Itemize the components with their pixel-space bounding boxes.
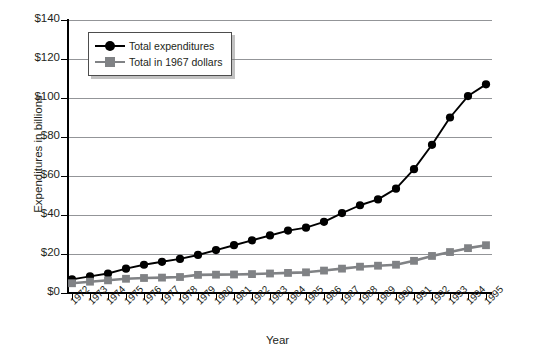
data-point-marker xyxy=(194,251,202,259)
legend-label-total-expenditures: Total expenditures xyxy=(125,40,214,52)
data-point-marker xyxy=(122,275,130,283)
data-point-marker xyxy=(158,258,166,266)
data-point-marker xyxy=(410,165,418,173)
data-point-marker xyxy=(302,268,310,276)
data-point-marker xyxy=(428,141,436,149)
data-point-marker xyxy=(482,241,490,249)
data-point-marker xyxy=(446,248,454,256)
legend-marker-square-gray xyxy=(95,55,125,69)
data-point-marker xyxy=(140,274,148,282)
data-point-marker xyxy=(374,195,382,203)
y-tick-mark xyxy=(61,293,68,294)
data-point-marker xyxy=(374,262,382,270)
data-point-marker xyxy=(266,231,274,239)
data-point-marker xyxy=(464,244,472,252)
y-tick-mark xyxy=(61,20,68,21)
data-point-marker xyxy=(320,218,328,226)
y-tick-mark xyxy=(61,176,68,177)
line-chart: Expenditures in billions $0$20$40$60$80$… xyxy=(0,0,555,357)
data-point-marker xyxy=(104,276,112,284)
data-point-marker xyxy=(194,271,202,279)
legend-label-total-1967-dollars: Total in 1967 dollars xyxy=(125,56,222,68)
data-point-marker xyxy=(482,80,490,88)
data-point-marker xyxy=(392,261,400,269)
y-tick-mark xyxy=(61,137,68,138)
data-point-marker xyxy=(284,269,292,277)
data-point-marker xyxy=(356,263,364,271)
legend-marker-circle-black xyxy=(95,39,125,53)
data-point-marker xyxy=(212,271,220,279)
data-point-marker xyxy=(86,278,94,286)
data-point-marker xyxy=(446,113,454,121)
data-point-marker xyxy=(338,209,346,217)
y-tick-mark xyxy=(61,254,68,255)
data-series-layer xyxy=(0,0,555,357)
x-axis-title: Year xyxy=(0,334,555,346)
data-point-marker xyxy=(248,270,256,278)
chart-legend: Total expenditures Total in 1967 dollars xyxy=(88,32,232,76)
series-line-total-expenditures xyxy=(72,84,486,279)
legend-item-total-expenditures: Total expenditures xyxy=(95,38,222,54)
data-point-marker xyxy=(176,255,184,263)
data-point-marker xyxy=(248,236,256,244)
y-tick-mark xyxy=(61,215,68,216)
series-line-total-1967-dollars xyxy=(72,245,486,283)
y-tick-mark xyxy=(61,59,68,60)
legend-item-total-1967-dollars: Total in 1967 dollars xyxy=(95,54,222,70)
data-point-marker xyxy=(356,201,364,209)
data-point-marker xyxy=(410,257,418,265)
data-point-marker xyxy=(212,246,220,254)
data-point-marker xyxy=(158,274,166,282)
data-point-marker xyxy=(392,185,400,193)
data-point-marker xyxy=(122,265,130,273)
data-point-marker xyxy=(266,270,274,278)
data-point-marker xyxy=(230,271,238,279)
data-point-marker xyxy=(320,267,328,275)
data-point-marker xyxy=(428,252,436,260)
data-point-marker xyxy=(176,273,184,281)
data-point-marker xyxy=(338,265,346,273)
y-tick-mark xyxy=(61,98,68,99)
data-point-marker xyxy=(464,92,472,100)
data-point-marker xyxy=(230,241,238,249)
data-point-marker xyxy=(104,269,112,277)
data-point-marker xyxy=(302,224,310,232)
data-point-marker xyxy=(284,227,292,235)
data-point-marker xyxy=(68,279,76,287)
data-point-marker xyxy=(140,261,148,269)
